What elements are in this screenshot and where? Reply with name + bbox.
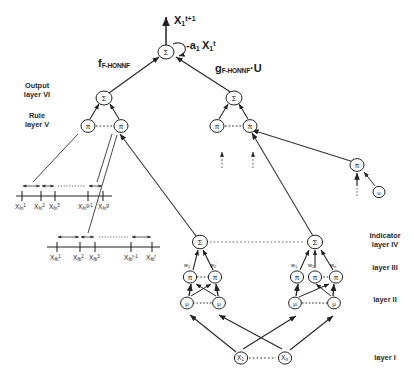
axis-fn-ticklabel-3: Xfn3 bbox=[49, 203, 60, 211]
axis-fb-ticklabel-3: Xfb3 bbox=[89, 254, 100, 262]
edge-isolated-pi-to-rule bbox=[252, 130, 357, 163]
node-glyph-mu-l2-l2: μ bbox=[217, 300, 221, 307]
edge-pi-r2-sigma bbox=[239, 104, 248, 119]
layer-label-output-line2: layer VI bbox=[8, 91, 66, 100]
layer-label-output: Output layer VI bbox=[8, 82, 66, 99]
node-glyph-pi-l3-r1: π bbox=[295, 274, 300, 281]
layer-label-i: layer I bbox=[358, 354, 412, 363]
edge-pi-l1-sigma bbox=[90, 104, 99, 119]
axis-fn-ticklabel-4: Xfng-1 bbox=[78, 203, 93, 211]
node-glyph-pi-rule-l2: π bbox=[119, 123, 124, 130]
node-glyph-pi-rule-r2: π bbox=[248, 123, 253, 130]
axis-fb-leader bbox=[88, 135, 117, 233]
axis-fn-ticklabel-5: Xfng bbox=[98, 203, 109, 211]
edge-muL2-piL2 bbox=[216, 284, 218, 296]
function-label-g: gF-HONNF·U bbox=[215, 62, 262, 75]
layer-label-indicator: Indicator layer IV bbox=[358, 232, 412, 249]
node-glyph-pi-rule-r1: π bbox=[215, 123, 220, 130]
layer-label-rule: Rule layer V bbox=[8, 112, 66, 129]
axis-fn-ticklabel-2: Xfn2 bbox=[34, 203, 45, 211]
edge-muR2-piR3 bbox=[333, 284, 334, 296]
feedback-label: -a1 X1t bbox=[186, 39, 215, 53]
diagram-canvas: Σ Σ Σ Σ Σ π π π π π π π π π π u μ μ μ μ bbox=[0, 0, 414, 377]
edge-muR2-piR2 bbox=[316, 284, 331, 296]
edge-muL1-piL1 bbox=[189, 284, 191, 296]
layer-label-iii: layer III bbox=[358, 264, 412, 273]
node-glyph-pi-l3-l2: π bbox=[213, 274, 218, 281]
node-glyph-pi-l3-r2: π bbox=[313, 274, 318, 281]
node-glyph-sigma-right: Σ bbox=[232, 94, 237, 103]
node-glyph-pi-rule-l1: π bbox=[86, 123, 91, 130]
input-label-x1: X1 bbox=[237, 354, 244, 362]
edge-muR1-piR1 bbox=[296, 284, 298, 296]
axis-fn-ticklabel-1: Xfn1 bbox=[15, 203, 26, 211]
edge-xn-muR2 bbox=[290, 316, 333, 350]
node-glyph-sigma-ind-right: Σ bbox=[313, 238, 318, 247]
edge-indicator-right-to-rule-a bbox=[252, 133, 313, 236]
edge-pi-l2-sigma bbox=[110, 104, 119, 119]
feedback-loop bbox=[173, 43, 185, 56]
edge-muL2-piL1-cross bbox=[196, 284, 216, 296]
node-glyph-mu-l2-r2: μ bbox=[332, 300, 336, 307]
node-glyph-mu-l2-l1: μ bbox=[185, 300, 189, 307]
layer-label-indicator-line2: layer IV bbox=[358, 241, 412, 250]
weight-label-right-1: w1' bbox=[291, 262, 298, 269]
output-label: X1t+1 bbox=[174, 14, 196, 28]
layer-label-rule-line2: layer V bbox=[8, 121, 66, 130]
node-glyph-mu-l2-r1: μ bbox=[293, 300, 297, 307]
input-label-xn: Xn bbox=[281, 354, 288, 362]
axis-fb-ticklabel-2: Xfb2 bbox=[73, 254, 84, 262]
node-glyph-sigma-ind-left: Σ bbox=[198, 238, 203, 247]
node-glyph-pi-isolated: π bbox=[355, 162, 360, 169]
edge-u-to-isolated-pi bbox=[364, 172, 375, 186]
weight-label-left-1: w1' bbox=[184, 262, 191, 269]
node-glyph-u: u bbox=[377, 189, 381, 196]
weight-label-right-2: w2' bbox=[308, 262, 315, 269]
edge-muL1-piL2-cross bbox=[191, 284, 211, 296]
node-glyph-sigma-left: Σ bbox=[102, 94, 107, 103]
node-glyph-pi-l3-r3: π bbox=[334, 274, 339, 281]
axis-fb-ticklabel-5: Xfbr bbox=[146, 254, 156, 262]
edge-pi-r1-sigma bbox=[219, 104, 228, 119]
axis-fb-ticklabel-4: Xfbr-1 bbox=[124, 254, 138, 262]
axis-fn-leader-left bbox=[33, 134, 78, 182]
node-glyph-sigma-top: Σ bbox=[164, 48, 169, 57]
edge-piL1-sigma bbox=[193, 250, 198, 270]
weight-label-left-2: w2' bbox=[210, 262, 217, 269]
function-label-f: fF-HONNF bbox=[98, 57, 130, 70]
weight-label-right-3: wn' bbox=[330, 262, 337, 269]
axis-fb-ticklabel-1: Xfb1 bbox=[50, 254, 61, 262]
edge-indicator-left-to-rule bbox=[120, 134, 196, 236]
layer-label-ii: layer II bbox=[358, 296, 412, 305]
node-glyph-pi-l3-l1: π bbox=[188, 274, 193, 281]
